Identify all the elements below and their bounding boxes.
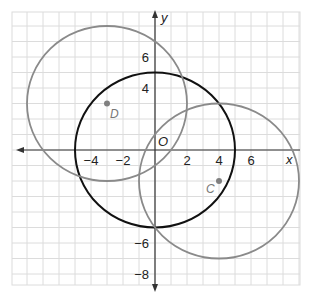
point-label-d: D: [110, 107, 119, 121]
x-tick-label: 6: [247, 153, 254, 168]
origin-label: O: [158, 134, 168, 149]
grid-lines: [12, 12, 300, 285]
y-tick-label: −8: [134, 267, 149, 282]
y-tick-label: 6: [142, 50, 149, 65]
y-tick-label: −6: [134, 236, 149, 251]
point-label-c: C: [206, 182, 215, 196]
point-c: [216, 178, 222, 184]
x-axis-label: x: [285, 152, 293, 167]
x-tick-label: −2: [116, 153, 131, 168]
plot-canvas: DC x y O −4−224664−6−8: [0, 0, 310, 299]
y-axis-arrow-down-icon: [152, 284, 158, 292]
x-tick-label: 4: [215, 153, 222, 168]
coordinate-plane: DC x y O −4−224664−6−8: [0, 0, 310, 299]
y-tick-label: 4: [142, 81, 149, 96]
x-tick-label: 2: [183, 153, 190, 168]
x-tick-label: −4: [84, 153, 99, 168]
